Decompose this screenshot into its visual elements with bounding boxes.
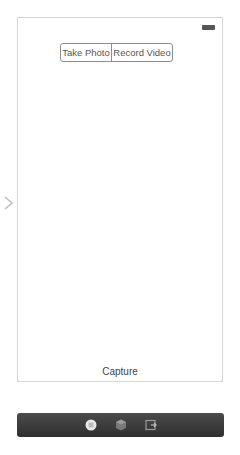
- scene-dock: [17, 413, 224, 437]
- view-controller-scene[interactable]: Take Photo Record Video Capture: [17, 17, 223, 382]
- segment-record-video[interactable]: Record Video: [111, 44, 172, 61]
- capture-button[interactable]: Capture: [18, 366, 222, 377]
- segmented-control[interactable]: Take Photo Record Video: [60, 43, 173, 62]
- battery-icon: [202, 25, 215, 30]
- view-controller-icon[interactable]: [85, 419, 97, 431]
- chevron-right-icon: [4, 196, 14, 210]
- exit-icon[interactable]: [145, 419, 157, 431]
- segment-take-photo[interactable]: Take Photo: [61, 44, 111, 61]
- first-responder-icon[interactable]: [115, 419, 127, 431]
